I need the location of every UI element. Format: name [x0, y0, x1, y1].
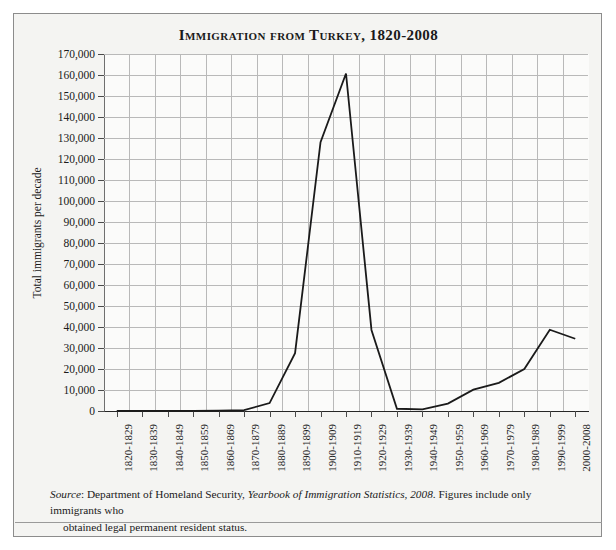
tick-x	[499, 411, 500, 417]
tick-x	[524, 411, 525, 417]
y-axis-tick-label: 170,000	[58, 48, 95, 60]
source-note: Source: Department of Homeland Security,…	[50, 486, 570, 535]
tick-x	[448, 411, 449, 417]
tick-x	[397, 411, 398, 417]
y-axis-tick-label: 160,000	[58, 69, 95, 81]
tick-x	[575, 411, 576, 417]
x-axis-tick-label: 1910-1919	[351, 424, 363, 472]
tick-x	[550, 411, 551, 417]
y-axis-tick-label: 150,000	[58, 90, 95, 102]
tick-x	[193, 411, 194, 417]
x-axis-tick-label: 1830-1839	[147, 424, 159, 472]
x-axis-tick-label: 1860-1869	[224, 424, 236, 472]
tick-y	[98, 411, 104, 412]
tick-x	[142, 411, 143, 417]
x-axis-tick-label: 1980-1989	[529, 424, 541, 472]
y-axis-tick-label: 60,000	[63, 279, 95, 291]
x-axis-tick-label: 1990-1999	[555, 424, 567, 472]
tick-x	[244, 411, 245, 417]
x-axis-tick-label: 1890-1899	[300, 424, 312, 472]
tick-x	[371, 411, 372, 417]
x-axis-tick-label: 1840-1849	[173, 424, 185, 472]
x-axis-tick-label: 1950-1959	[453, 424, 465, 472]
y-axis-tick-label: 80,000	[63, 237, 95, 249]
tick-x	[321, 411, 322, 417]
y-axis-tick-label: 130,000	[58, 132, 95, 144]
tick-x	[270, 411, 271, 417]
source-label: Source	[50, 488, 81, 500]
x-axis-tick-label: 1820-1829	[122, 424, 134, 472]
x-axis-tick-label: 1900-1909	[326, 424, 338, 472]
y-axis-tick-label: 50,000	[63, 300, 95, 312]
x-axis-tick-label: 1920-1929	[376, 424, 388, 472]
x-axis-tick-label: 1940-1949	[427, 424, 439, 472]
x-axis-tick-label: 1850-1859	[198, 424, 210, 472]
tick-x	[219, 411, 220, 417]
y-axis-tick-label: 40,000	[63, 321, 95, 333]
chart-figure: Immigration from Turkey, 1820-2008 Total…	[13, 13, 602, 537]
y-axis-tick-label: 100,000	[58, 195, 95, 207]
plot-wrap: 010,00020,00030,00040,00050,00060,00070,…	[104, 54, 588, 411]
y-axis-tick-label: 0	[89, 405, 95, 417]
y-axis-tick-label: 90,000	[63, 216, 95, 228]
y-axis-tick-label: 20,000	[63, 363, 95, 375]
tick-x	[346, 411, 347, 417]
y-axis-title-label: Total immigrants per decade	[31, 167, 43, 298]
tick-x	[473, 411, 474, 417]
x-axis-tick-label: 1970-1979	[504, 424, 516, 472]
source-text-before: : Department of Homeland Security,	[81, 488, 248, 500]
x-axis-tick-label: 1960-1969	[478, 424, 490, 472]
tick-x	[295, 411, 296, 417]
chart-title: Immigration from Turkey, 1820-2008	[14, 27, 603, 44]
tick-x	[168, 411, 169, 417]
tick-x	[422, 411, 423, 417]
y-axis-tick-label: 120,000	[58, 153, 95, 165]
source-note-divider	[15, 522, 602, 523]
x-axis-tick-label: 1880-1889	[275, 424, 287, 472]
y-axis-tick-label: 140,000	[58, 111, 95, 123]
y-axis-title: Total immigrants per decade	[28, 54, 46, 411]
tick-x	[117, 411, 118, 417]
x-axis-tick-label: 1930-1939	[402, 424, 414, 472]
y-axis-tick-label: 30,000	[63, 342, 95, 354]
source-publication-title: Yearbook of Immigration Statistics, 2008	[248, 488, 433, 500]
data-series-line	[104, 54, 588, 411]
x-axis-tick-label: 1870-1879	[249, 424, 261, 472]
y-axis-tick-label: 70,000	[63, 258, 95, 270]
y-axis-tick-label: 110,000	[58, 174, 95, 186]
y-axis-tick-label: 10,000	[63, 384, 95, 396]
x-axis-tick-label: 2000-2008	[580, 424, 592, 472]
